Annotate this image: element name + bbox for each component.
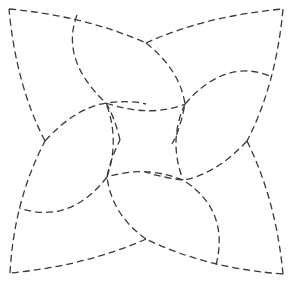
outer-top-left-arc	[9, 9, 146, 43]
petal-right-a	[185, 71, 270, 104]
outer-left-bottom-arc	[10, 141, 45, 273]
petal-right-b	[176, 104, 185, 180]
outer-left-top-arc	[9, 9, 45, 141]
petal-right-c	[145, 141, 247, 180]
quilt-pattern-diagram	[0, 0, 292, 288]
petal-left-a	[19, 177, 107, 212]
outer-bottom-right-arc	[146, 239, 283, 274]
outer-top-right-arc	[146, 9, 283, 43]
petal-left-c	[45, 102, 146, 141]
petal-bottom-b	[107, 172, 183, 180]
petal-bottom-a	[183, 180, 219, 265]
pinwheel-pattern-svg	[0, 0, 292, 288]
outer-right-top-arc	[247, 9, 283, 141]
outer-bottom-left-arc	[10, 239, 146, 273]
petal-top-c	[146, 43, 185, 144]
outer-right-bottom-arc	[247, 141, 283, 274]
petal-top-a	[72, 15, 120, 140]
